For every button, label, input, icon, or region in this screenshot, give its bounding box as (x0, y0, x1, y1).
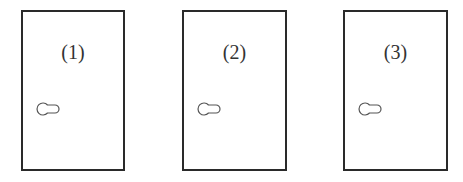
doors-diagram: (1) (2) (3) (0, 0, 463, 182)
door-label: (2) (184, 42, 285, 62)
door-knob-icon (35, 101, 65, 117)
door-1[interactable]: (1) (21, 10, 125, 171)
door-3[interactable]: (3) (343, 10, 448, 171)
door-label: (3) (345, 42, 446, 62)
door-label: (1) (23, 42, 123, 62)
door-knob-icon (357, 101, 387, 117)
door-knob-icon (196, 101, 226, 117)
door-2[interactable]: (2) (182, 10, 287, 171)
